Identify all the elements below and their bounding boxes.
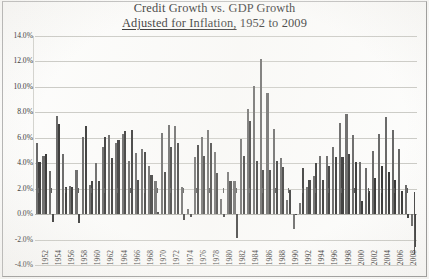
x-axis-tick-1956 (65, 188, 66, 193)
x-axis-tick-1962 (104, 188, 105, 193)
y-axis-tick-label: 6.0% (0, 134, 33, 142)
x-axis-tick-1998 (341, 188, 342, 193)
chart-title-line-1: Credit Growth vs. GDP Growth (0, 1, 429, 16)
x-axis-tick-label: 1996 (331, 250, 339, 265)
x-axis-tick-1996 (328, 188, 329, 193)
x-axis-tick-1978 (209, 188, 210, 193)
x-axis-tick-label: 2006 (397, 250, 405, 265)
y-axis-tick-label: 14.0% (0, 32, 33, 40)
chart-title-line-2: Adjusted for Inflation, 1952 to 2009 (0, 16, 429, 31)
x-axis-tick-label: 1976 (200, 250, 208, 265)
x-axis-tick-1984 (249, 188, 250, 193)
y-axis-line (33, 36, 34, 192)
x-axis-tick-label: 1958 (81, 250, 89, 265)
x-axis-tick-label: 1962 (107, 250, 115, 265)
x-axis-tick-label: 1974 (187, 250, 195, 265)
x-axis-tick-2002 (368, 188, 369, 193)
chart-title-block: Credit Growth vs. GDP Growth Adjusted fo… (0, 1, 429, 30)
x-axis-tick-2004 (381, 188, 382, 193)
chart-title-range-part: 1952 to 2009 (237, 16, 307, 30)
y-axis-tick-label: 0.0% (0, 210, 33, 218)
y-axis-labels: 14.0%12.0%10.0%8.0%6.0%4.0%2.0%0.0%-2.0%… (0, 36, 33, 265)
x-axis-tick-1986 (262, 188, 263, 193)
x-axis-tick-label: 2008 (410, 250, 418, 265)
x-axis-tick-label: 1998 (345, 250, 353, 265)
x-axis-tick-label: 1988 (279, 250, 287, 265)
x-axis-tick-label: 1952 (42, 250, 50, 265)
x-axis-tick-label: 1982 (239, 250, 247, 265)
x-axis-tick-label: 1956 (68, 250, 76, 265)
x-axis-tick-1964 (117, 188, 118, 193)
x-axis-tick-label: 1992 (305, 250, 313, 265)
x-axis-tick-2008 (407, 188, 408, 193)
x-axis-tick-label: 1966 (134, 250, 142, 265)
y-axis-tick-label: 2.0% (0, 185, 33, 193)
x-axis-tick-label: 1968 (147, 250, 155, 265)
y-axis-tick-label: 4.0% (0, 159, 33, 167)
x-axis-tick-1952 (38, 188, 39, 193)
x-axis-tick-1980 (223, 188, 224, 193)
x-axis-tick-label: 1964 (121, 250, 129, 265)
x-axis-tick-1976 (196, 188, 197, 193)
x-axis-tick-1960 (91, 188, 92, 193)
x-axis-tick-1970 (157, 188, 158, 193)
x-axis-tick-label: 1984 (252, 250, 260, 265)
x-axis-tick-1990 (288, 188, 289, 193)
x-axis-tick-label: 1954 (55, 250, 63, 265)
x-axis-tick-label: 1994 (318, 250, 326, 265)
x-axis-tick-1974 (183, 188, 184, 193)
x-axis-tick-1994 (315, 188, 316, 193)
y-axis-tick-label: 10.0% (0, 83, 33, 91)
x-axis-tick-1968 (144, 188, 145, 193)
x-axis-tick-1982 (236, 188, 237, 193)
x-axis-tick-1972 (170, 188, 171, 193)
x-axis-tick-label: 1978 (213, 250, 221, 265)
x-axis-tick-label: 1986 (266, 250, 274, 265)
x-axis-tick-2000 (354, 188, 355, 193)
x-axis-tick-label: 2004 (384, 250, 392, 265)
x-axis-tick-label: 1972 (173, 250, 181, 265)
x-axis-tick-label: 1960 (94, 250, 102, 265)
x-axis-labels: 1952195419561958196019621964196619681970… (35, 192, 417, 254)
x-axis-tick-1988 (275, 188, 276, 193)
x-axis-tick-1954 (51, 188, 52, 193)
x-axis-tick-label: 2000 (358, 250, 366, 265)
x-axis-tick-1992 (302, 188, 303, 193)
x-axis-tick-label: 2002 (371, 250, 379, 265)
x-axis-tick-1958 (78, 188, 79, 193)
y-axis-tick-label: 8.0% (0, 108, 33, 116)
chart-title-underlined-part: Adjusted for Inflation, (122, 16, 237, 30)
y-axis-tick-label: -2.0% (0, 236, 33, 244)
y-axis-tick-label: 12.0% (0, 57, 33, 65)
x-axis-tick-label: 1990 (292, 250, 300, 265)
chart-page: Credit Growth vs. GDP Growth Adjusted fo… (0, 0, 429, 279)
x-axis-tick-1966 (130, 188, 131, 193)
x-axis-tick-2006 (394, 188, 395, 193)
x-axis-tick-label: 1970 (160, 250, 168, 265)
x-axis-tick-label: 1980 (226, 250, 234, 265)
y-axis-tick-label: -4.0% (0, 261, 33, 269)
